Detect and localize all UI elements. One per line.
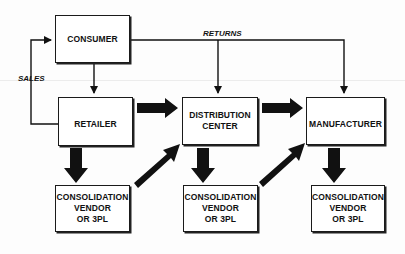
node-dc-line1: DISTRIBUTION [189, 110, 251, 121]
thick-arrow-retailer-to-consolidation [64, 148, 88, 183]
arrow-returns-to-manufacturer [130, 40, 344, 93]
thick-arrow-retailer-to-dc [137, 98, 178, 118]
node-consumer: CONSUMER [55, 15, 130, 63]
node-consolidation-1: CONSOLIDATION VENDOR OR 3PL [55, 185, 130, 232]
node-cons1-line2: VENDOR [57, 203, 129, 214]
node-retailer: RETAILER [58, 97, 133, 146]
node-consolidation-3: CONSOLIDATION VENDOR OR 3PL [311, 185, 385, 232]
thick-arrow-dc-to-consolidation [191, 148, 215, 183]
node-consumer-label: CONSUMER [67, 34, 117, 45]
node-retailer-label: RETAILER [74, 119, 117, 130]
thick-arrow-consolidation-to-manufacturer [259, 143, 305, 187]
node-consolidation-2: CONSOLIDATION VENDOR OR 3PL [183, 185, 258, 232]
thick-arrow-manufacturer-to-consolidation [322, 148, 346, 183]
node-cons3-line2: VENDOR [312, 203, 384, 214]
node-cons2-line2: VENDOR [185, 203, 257, 214]
node-cons3-line1: CONSOLIDATION [312, 192, 384, 203]
sales-label: SALES [18, 74, 45, 83]
returns-label: RETURNS [203, 29, 242, 38]
node-manufacturer-label: MANUFACTURER [309, 119, 382, 130]
thick-arrow-dc-to-manufacturer [262, 98, 303, 118]
reverse-logistics-diagram: SALES RETURNS CONSUMER RETAILER DISTRIBU… [0, 0, 405, 254]
node-cons2-line1: CONSOLIDATION [185, 192, 257, 203]
node-manufacturer: MANUFACTURER [306, 97, 385, 145]
node-cons3-line3: OR 3PL [312, 214, 384, 225]
node-dc-line2: CENTER [189, 121, 251, 132]
thick-arrow-consolidation-to-dc [134, 144, 180, 188]
node-cons1-line1: CONSOLIDATION [57, 192, 129, 203]
node-distribution-center: DISTRIBUTION CENTER [182, 97, 258, 145]
node-cons1-line3: OR 3PL [57, 214, 129, 225]
node-cons2-line3: OR 3PL [185, 214, 257, 225]
